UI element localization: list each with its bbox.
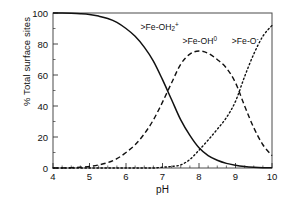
curve-label-fe-oh-zero: >Fe-OH0 — [183, 35, 217, 46]
x-tick-label-7: 7 — [153, 171, 173, 182]
surface-speciation-chart: % Total surface sites pH 100 80 60 40 20… — [0, 0, 289, 201]
y-tick-label-20: 20 — [18, 132, 48, 143]
x-tick-label-9: 9 — [226, 171, 246, 182]
series-curve-dashed — [53, 51, 272, 168]
y-tick-label-40: 40 — [18, 101, 48, 112]
x-tick-label-10: 10 — [262, 171, 282, 182]
y-tick-label-60: 60 — [18, 70, 48, 81]
x-tick-label-5: 5 — [80, 171, 100, 182]
x-tick-label-8: 8 — [189, 171, 209, 182]
series-curve-dotted — [53, 25, 272, 168]
x-axis-title: pH — [53, 184, 272, 195]
y-tick-label-80: 80 — [18, 39, 48, 50]
y-tick-label-100: 100 — [18, 8, 48, 19]
curve-label-fe-o-minus: >Fe-O- — [232, 35, 259, 46]
curve-label-fe-oh2-plus: >Fe-OH2+ — [141, 21, 179, 32]
x-tick-label-6: 6 — [116, 171, 136, 182]
x-tick-label-4: 4 — [43, 171, 63, 182]
